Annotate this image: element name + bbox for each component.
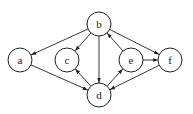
edge-d-to-c	[75, 69, 91, 86]
edge-d-to-e	[107, 69, 123, 86]
node-label: b	[96, 18, 102, 30]
node-label: a	[18, 54, 23, 66]
node-b: b	[87, 12, 111, 36]
edge-b-to-c	[75, 33, 91, 51]
directed-graph: abcdef	[0, 0, 193, 114]
node-label: c	[65, 54, 70, 66]
node-label: f	[168, 54, 172, 66]
node-d: d	[87, 83, 111, 107]
node-label: d	[96, 89, 102, 101]
node-f: f	[158, 48, 182, 72]
node-c: c	[55, 48, 79, 72]
node-e: e	[119, 48, 143, 72]
node-a: a	[8, 48, 32, 72]
edge-e-to-b	[107, 33, 123, 51]
node-label: e	[129, 54, 134, 66]
